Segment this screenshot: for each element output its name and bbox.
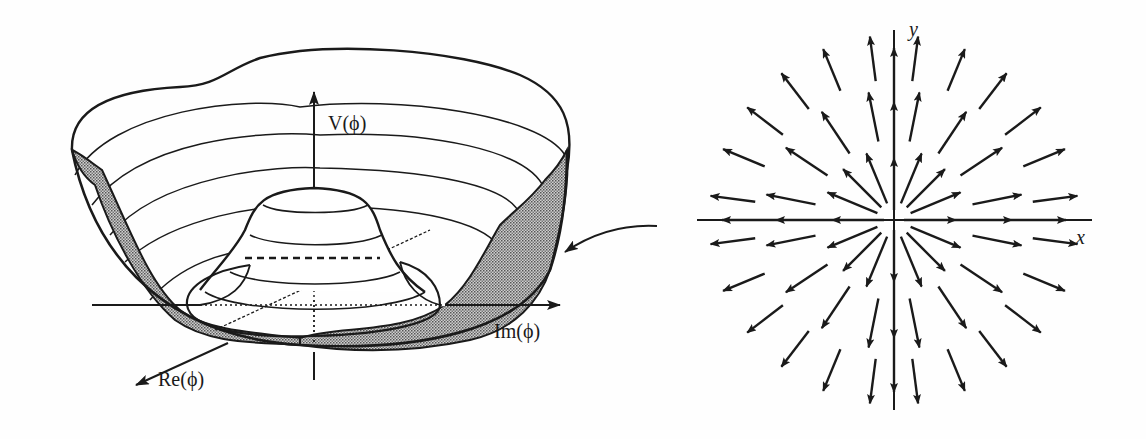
vector-arrow <box>723 149 765 166</box>
vector-arrow <box>938 287 966 329</box>
vector-arrow <box>870 359 876 404</box>
vector-arrow <box>786 264 828 292</box>
vector-arrow <box>1023 149 1065 166</box>
rim-back <box>72 49 570 170</box>
central-hump <box>200 188 425 292</box>
vector-arrow <box>822 287 850 329</box>
v-phi-label: V(ϕ) <box>328 112 366 135</box>
vector-arrow <box>1033 238 1078 244</box>
vector-arrow <box>869 93 879 142</box>
vector-arrow <box>747 107 783 134</box>
vector-arrow <box>910 93 920 142</box>
vector-arrow <box>973 236 1022 246</box>
vector-arrow <box>747 305 783 332</box>
vector-arrow <box>912 37 918 82</box>
vector-arrow <box>1005 107 1041 134</box>
x-axis-label: x <box>1076 226 1085 249</box>
vector-arrow <box>711 196 756 202</box>
vector-arrow <box>822 112 850 154</box>
vector-arrow <box>723 274 765 291</box>
y-axis-label: y <box>909 18 918 41</box>
connector-curved-arrow <box>565 226 657 252</box>
vector-arrow <box>961 148 1003 176</box>
vector-arrow <box>910 299 920 348</box>
vector-arrow <box>1033 196 1078 202</box>
vector-arrow <box>1023 274 1065 291</box>
vector-arrow <box>786 148 828 176</box>
radial-vector-field <box>697 30 1092 410</box>
vector-arrow <box>711 238 756 244</box>
vector-arrow <box>781 331 808 367</box>
vector-arrow <box>869 299 879 348</box>
vector-arrow <box>823 49 840 91</box>
vector-arrow <box>767 195 816 205</box>
vector-arrow <box>979 331 1006 367</box>
re-phi-label: Re(ϕ) <box>158 368 204 391</box>
vector-arrow <box>1005 305 1041 332</box>
vector-arrow <box>948 49 965 91</box>
vector-arrow <box>948 349 965 391</box>
im-phi-label: Im(ϕ) <box>494 320 540 343</box>
vector-arrow <box>823 349 840 391</box>
vector-arrow <box>912 359 918 404</box>
vector-arrow <box>767 236 816 246</box>
vector-arrow <box>938 112 966 154</box>
vector-arrow <box>870 37 876 82</box>
vector-arrow <box>979 73 1006 109</box>
vector-arrow <box>973 195 1022 205</box>
vector-arrow <box>961 264 1003 292</box>
vector-arrow <box>781 73 808 109</box>
